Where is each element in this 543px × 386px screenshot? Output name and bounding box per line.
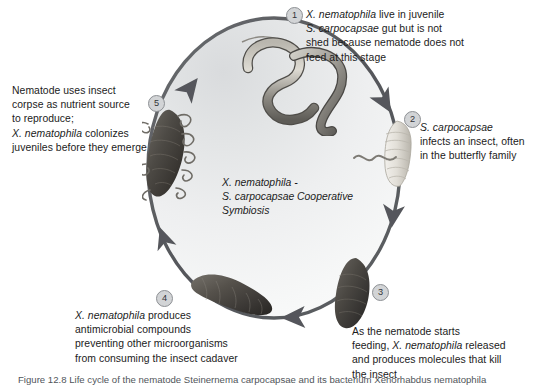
figure-canvas: 1 2 3 4 5 X. nematophila live in juvenil…: [0, 0, 543, 386]
step-badge-4[interactable]: 4: [156, 290, 173, 307]
nematode-infective-juvenile-illustration: [352, 146, 400, 172]
step-4-description: X. nematophila producesantimicrobial com…: [75, 309, 290, 366]
step-badge-2[interactable]: 2: [404, 111, 421, 128]
insect-cadaver-right-illustration: [330, 256, 378, 332]
cycle-center-title: X. nematophila -S. carpocapsae Cooperati…: [222, 176, 362, 218]
figure-caption: Figure 12.8 Life cycle of the nematode S…: [18, 374, 538, 386]
arrowhead-left-lower: [150, 224, 176, 251]
step-1-description: X. nematophila live in juvenileS. carpoc…: [306, 8, 536, 65]
step-5-description: Nematode uses insectcorpse as nutrient s…: [12, 84, 164, 155]
step-badge-3[interactable]: 3: [372, 284, 389, 301]
step-badge-1[interactable]: 1: [286, 7, 303, 24]
arrowhead-right-lower: [381, 204, 405, 229]
step-2-description: S. carpocapsaeinfects an insect, oftenin…: [420, 121, 542, 164]
arrowhead-upper-left: [174, 71, 206, 103]
arrowhead-right-upper: [369, 87, 400, 119]
